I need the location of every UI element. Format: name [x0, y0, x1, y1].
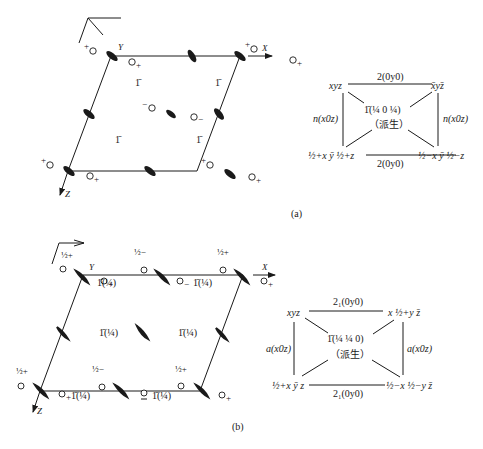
z-axis-label-b: Z: [37, 406, 43, 416]
op-center-2: （派生）: [369, 118, 409, 130]
svg-text:+: +: [201, 155, 206, 165]
svg-text:½+: ½+: [175, 364, 187, 374]
svg-text:½−: ½−: [134, 247, 146, 257]
panel-b: X Y Z ½+ + ½− − ½+: [16, 240, 433, 433]
svg-text:½−: ½−: [92, 364, 104, 374]
svg-text:+: +: [256, 175, 261, 185]
op-top-right-b: x ½+y z̄: [387, 307, 421, 318]
op-right-edge-b: a(x0z): [407, 343, 433, 355]
svg-text:1̄(¼): 1̄(¼): [71, 390, 90, 402]
svg-text:−: −: [142, 99, 147, 109]
y-axis-label-b: Y: [89, 262, 95, 272]
op-bottom-edge-b: 2₁(0y0): [333, 388, 363, 400]
svg-text:+: +: [245, 39, 250, 49]
svg-text:+: +: [84, 41, 89, 51]
op-right-edge: n(x0z): [443, 113, 469, 125]
svg-text:1̄(¼): 1̄(¼): [97, 277, 116, 289]
svg-text:½+: ½+: [16, 366, 28, 376]
op-top-edge-b: 2₁(0y0): [333, 296, 363, 308]
caption-a: (a): [291, 208, 302, 220]
op-left-edge: n(x0z): [313, 113, 339, 125]
svg-text:½+: ½+: [217, 247, 229, 257]
svg-text:+: +: [226, 393, 231, 403]
svg-text:1̄(¼): 1̄(¼): [99, 327, 118, 339]
unit-cell-a: [68, 56, 240, 171]
svg-text:+: +: [94, 174, 99, 184]
op-top-right: x̄yz̄: [430, 80, 444, 91]
op-bottom-edge: 2(0y0): [377, 158, 404, 170]
op-bottom-left: ½+x ȳ ½+z: [308, 150, 354, 161]
svg-text:1̄: 1̄: [135, 77, 142, 88]
inversion-centers-b: 1̄(¼) 1̄(¼) 1̄(¼) 1̄(¼) 1̄(¼) 1̄(¼): [71, 277, 212, 402]
svg-text:1̄: 1̄: [196, 134, 203, 145]
svg-text:1̄: 1̄: [215, 77, 222, 88]
screw-axis-icons-b: [35, 271, 248, 397]
z-axis-label-a: Z: [65, 189, 71, 199]
op-center-1: 1̄(¼ 0 ¼): [364, 104, 401, 116]
op-xyz: xyz: [328, 80, 342, 91]
op-bottom-left-b: ½+x ȳ z: [272, 380, 304, 391]
symmetry-table-a: xyz x̄yz̄ 2(0y0) n(x0z) n(x0z) 1̄(¼ 0 ¼)…: [308, 71, 469, 170]
op-center-1-b: 1̄(¼ ¼ 0): [327, 333, 364, 345]
op-top-edge: 2(0y0): [377, 71, 404, 83]
x-axis-label-b: X: [261, 262, 268, 272]
op-center-2-b: （派生）: [330, 348, 370, 360]
svg-text:1̄(¼): 1̄(¼): [152, 390, 171, 402]
op-bottom-right-b: ½−x ½−y z̄: [386, 380, 433, 391]
svg-text:1̄: 1̄: [115, 134, 122, 145]
crystallography-figure: X Y Z + + + + −: [0, 0, 483, 449]
svg-text:+: +: [268, 279, 273, 289]
op-xyz-b: xyz: [286, 307, 300, 318]
x-axis-label-a: X: [261, 43, 268, 53]
op-bottom-right: ½−x ȳ ½−z: [418, 150, 464, 161]
svg-text:½+: ½+: [61, 250, 73, 260]
axis-corner-icon: [79, 18, 121, 43]
symmetry-table-b: xyz x ½+y z̄ 2₁(0y0) a(x0z) a(x0z) 1̄(¼ …: [266, 296, 433, 400]
y-axis-label-a: Y: [118, 42, 124, 52]
svg-text:−: −: [198, 114, 203, 124]
caption-b: (b): [232, 421, 244, 433]
svg-text:1̄(¼): 1̄(¼): [178, 327, 197, 339]
svg-text:+: +: [297, 58, 302, 68]
panel-a: X Y Z + + + + −: [41, 18, 469, 220]
svg-text:+: +: [41, 155, 46, 165]
op-left-edge-b: a(x0z): [266, 343, 292, 355]
svg-text:−: −: [184, 279, 189, 289]
twofold-axis-icons-a: [62, 48, 248, 180]
svg-text:1̄(¼): 1̄(¼): [193, 277, 212, 289]
svg-text:+: +: [136, 60, 141, 70]
